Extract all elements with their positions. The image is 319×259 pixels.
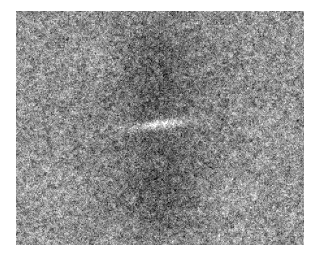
power-spectrum-plot (16, 11, 304, 245)
screenshot-root (0, 0, 319, 259)
spectrum-heatmap-canvas (16, 11, 304, 245)
